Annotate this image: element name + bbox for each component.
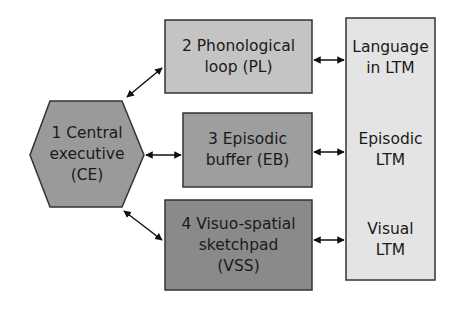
label-line: in LTM [366,58,414,79]
arrow-ce-vss [124,211,162,240]
label-line: sketchpad [199,235,279,256]
label-line: Visual [367,219,413,240]
ltm-language-label: Language in LTM [346,30,435,86]
label-line: 2 Phonological [182,36,295,57]
ltm-visual-label: Visual LTM [346,212,435,268]
label-line: 3 Episodic [208,129,287,150]
label-line: buffer (EB) [206,150,290,171]
episodic-buffer-label: 3 Episodic buffer (EB) [183,113,312,187]
label-line: Language [352,37,429,58]
phonological-loop-label: 2 Phonological loop (PL) [165,20,312,93]
label-line: 4 Visuo-spatial [181,214,295,235]
label-line: Episodic [358,129,422,150]
label-line: executive [50,144,125,165]
ltm-episodic-label: Episodic LTM [346,122,435,178]
label-line: loop (PL) [204,57,272,78]
label-line: 1 Central [51,123,122,144]
label-line: LTM [376,240,405,261]
visuo-spatial-sketchpad-label: 4 Visuo-spatial sketchpad (VSS) [165,200,312,290]
label-line: (CE) [71,165,104,186]
central-executive-label: 1 Central executive (CE) [32,104,142,204]
label-line: LTM [376,150,405,171]
label-line: (VSS) [217,256,259,277]
arrow-ce-pl [127,68,162,97]
